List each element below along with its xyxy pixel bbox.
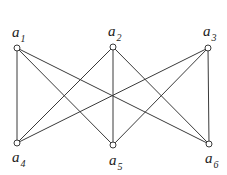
node-a2 [110, 44, 116, 50]
node-a3 [205, 45, 211, 51]
label-a5: a5 [109, 152, 123, 172]
label-a4: a4 [12, 149, 26, 169]
label-a2: a2 [108, 23, 122, 43]
label-a6: a6 [205, 150, 219, 170]
node-a6 [206, 141, 212, 147]
label-a1: a1 [12, 24, 26, 44]
edge-a2-a4 [17, 47, 113, 143]
edge-a3-a5 [113, 48, 208, 145]
edges [17, 47, 209, 145]
node-a4 [14, 140, 20, 146]
edge-a1-a5 [17, 48, 113, 145]
bipartite-graph: a1a2a3a4a5a6 [0, 0, 227, 175]
node-a1 [14, 45, 20, 51]
edge-a3-a6 [208, 48, 209, 144]
label-a3: a3 [203, 23, 217, 43]
node-a5 [110, 142, 116, 148]
